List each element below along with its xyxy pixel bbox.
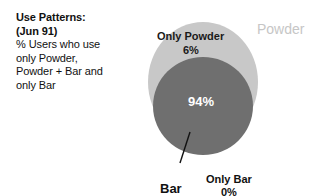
only-bar-label: Only Bar (206, 173, 252, 185)
only-bar-value: 0% (221, 186, 237, 196)
caption-title-line-1: Use Patterns: (16, 11, 138, 25)
venn-diagram: Only Powder 6% Powder 94% Bar Only Bar 0… (145, 18, 323, 196)
caption-body-line-2: only Powder, (16, 52, 138, 66)
bar-circle-label: Bar (160, 183, 182, 195)
caption-block: Use Patterns: (Jun 91) % Users who use o… (16, 11, 138, 92)
caption-title-line-2: (Jun 91) (16, 25, 138, 39)
caption-body-line-1: % Users who use (16, 38, 138, 52)
caption-body-line-4: only Bar (16, 79, 138, 93)
only-powder-label: Only Powder (157, 30, 224, 42)
only-powder-value: 6% (183, 44, 199, 56)
powder-circle-label: Powder (257, 23, 304, 35)
chart-canvas: Use Patterns: (Jun 91) % Users who use o… (0, 0, 323, 196)
caption-body-line-3: Powder + Bar and (16, 65, 138, 79)
powder-plus-bar-value: 94% (188, 96, 214, 108)
